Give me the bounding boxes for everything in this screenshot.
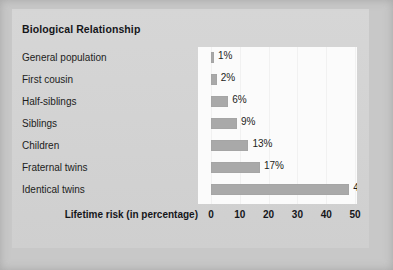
bar-value-label: 17% xyxy=(264,160,284,171)
category-label: Fraternal twins xyxy=(22,157,198,179)
category-label-column: General population First cousin Half-sib… xyxy=(22,47,198,201)
x-axis-tick: 10 xyxy=(234,209,245,220)
bar-value-label: 9% xyxy=(241,116,255,127)
x-axis-tick: 20 xyxy=(263,209,274,220)
category-label: General population xyxy=(22,47,198,69)
chart-title: Biological Relationship xyxy=(22,23,140,35)
bar xyxy=(211,184,349,195)
x-axis-tick: 30 xyxy=(292,209,303,220)
x-axis-tick: 50 xyxy=(349,209,360,220)
bar-row: 9% xyxy=(198,113,357,135)
bar xyxy=(211,140,248,151)
bar-row: 13% xyxy=(198,135,357,157)
x-axis-tick: 0 xyxy=(208,209,214,220)
x-axis-tick: 40 xyxy=(321,209,332,220)
category-label: Identical twins xyxy=(22,179,198,201)
bar xyxy=(211,162,260,173)
plot-area: 1% 2% 6% 9% 13% xyxy=(198,47,357,204)
x-axis-tick-labels: 01020304050 xyxy=(198,209,357,223)
x-axis-title: Lifetime risk (in percentage) xyxy=(22,209,198,220)
bar-value-label: 2% xyxy=(221,72,235,83)
bar-value-label: 6% xyxy=(232,94,246,105)
bar xyxy=(211,96,228,107)
bar-rows: 1% 2% 6% 9% 13% xyxy=(198,47,357,201)
category-label: Half-siblings xyxy=(22,91,198,113)
bar-row: 2% xyxy=(198,69,357,91)
chart-card: Biological Relationship General populati… xyxy=(12,9,369,248)
chart-screenshot: Biological Relationship General populati… xyxy=(0,0,393,270)
category-label: Children xyxy=(22,135,198,157)
category-label: First cousin xyxy=(22,69,198,91)
category-label: Siblings xyxy=(22,113,198,135)
bar xyxy=(211,74,217,85)
bar-row: 48% xyxy=(198,179,357,201)
bar xyxy=(211,52,214,63)
bar-row: 1% xyxy=(198,47,357,69)
bar-value-label: 48% xyxy=(353,182,357,193)
bar xyxy=(211,118,237,129)
bar-row: 6% xyxy=(198,91,357,113)
bar-value-label: 1% xyxy=(218,50,232,61)
bar-value-label: 13% xyxy=(252,138,272,149)
bar-row: 17% xyxy=(198,157,357,179)
